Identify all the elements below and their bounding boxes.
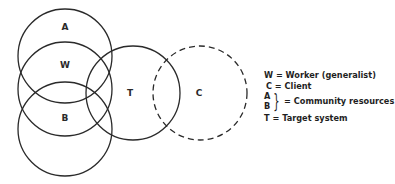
circle-b (18, 82, 112, 176)
brace-icon: } (274, 92, 280, 111)
legend-community-letters: A B (264, 92, 270, 111)
legend: W = Worker (generalist) C = Client A B }… (264, 70, 394, 124)
label-t: T (127, 88, 134, 98)
legend-worker: W = Worker (generalist) (264, 70, 394, 81)
legend-community-b: B (264, 102, 270, 112)
legend-client: C = Client (264, 81, 394, 92)
legend-community-label: = Community resources (284, 96, 394, 107)
label-w: W (60, 60, 70, 70)
label-c: C (196, 88, 203, 98)
legend-target: T = Target system (264, 113, 394, 124)
legend-community: A B } = Community resources (264, 92, 394, 111)
label-a: A (62, 22, 69, 32)
label-b: B (62, 113, 69, 123)
